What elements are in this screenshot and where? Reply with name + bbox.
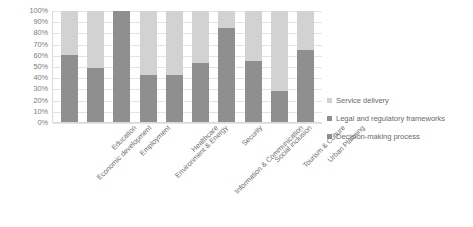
bar-column[interactable] — [61, 11, 78, 122]
bar-segment[interactable] — [271, 91, 288, 122]
legend-label: Legal and regulatory frameworks — [336, 114, 445, 123]
stacked-bar-chart: 100%90%80%70%60%50%40%30%20%10%0% Econom… — [0, 0, 473, 227]
y-axis-tick-label: 80% — [34, 29, 49, 37]
bar-segment[interactable] — [192, 63, 209, 122]
bar-segment[interactable] — [245, 11, 262, 61]
legend-item[interactable]: Decision-making process — [327, 132, 473, 141]
bar-segment[interactable] — [297, 50, 314, 122]
bar-column[interactable] — [87, 11, 104, 122]
bar-segment[interactable] — [113, 11, 130, 122]
y-axis: 100%90%80%70%60%50%40%30%20%10%0% — [14, 11, 50, 123]
y-axis-tick-label: 10% — [34, 108, 49, 116]
bar-column[interactable] — [245, 11, 262, 122]
bar-segment[interactable] — [271, 11, 288, 91]
bar-segment[interactable] — [140, 11, 157, 75]
y-axis-tick-label: 100% — [29, 7, 48, 15]
bar-segment[interactable] — [87, 68, 104, 122]
bar-segment[interactable] — [166, 11, 183, 75]
bar-column[interactable] — [218, 11, 235, 122]
bar-column[interactable] — [113, 11, 130, 122]
bar-segment[interactable] — [61, 55, 78, 122]
bar-column[interactable] — [297, 11, 314, 122]
bar-segment[interactable] — [297, 11, 314, 50]
y-axis-tick-label: 20% — [34, 97, 49, 105]
legend-swatch-icon — [327, 134, 332, 139]
bar-column[interactable] — [192, 11, 209, 122]
y-axis-tick-label: 30% — [34, 85, 49, 93]
legend-item[interactable]: Legal and regulatory frameworks — [327, 114, 473, 123]
legend-item[interactable]: Service delivery — [327, 96, 473, 105]
legend-swatch-icon — [327, 116, 332, 121]
y-axis-tick-label: 70% — [34, 41, 49, 49]
y-axis-tick-label: 50% — [34, 63, 49, 71]
chart-legend: Service deliveryLegal and regulatory fra… — [327, 96, 473, 150]
bar-segment[interactable] — [166, 75, 183, 122]
bar-segment[interactable] — [192, 11, 209, 63]
x-axis-labels: Economic developmentEducationEmploymentE… — [52, 124, 322, 219]
bar-column[interactable] — [166, 11, 183, 122]
y-axis-tick-label: 40% — [34, 74, 49, 82]
x-axis-tick-label: Security — [240, 124, 264, 148]
bar-segment[interactable] — [61, 11, 78, 55]
bar-segment[interactable] — [218, 11, 235, 28]
x-axis-tick-label: Environment & Energy — [174, 124, 230, 180]
bar-segment[interactable] — [218, 28, 235, 122]
bar-segment[interactable] — [140, 75, 157, 122]
plot-wrapper: 100%90%80%70%60%50%40%30%20%10%0% — [52, 11, 322, 123]
legend-label: Service delivery — [336, 96, 389, 105]
y-axis-tick-label: 60% — [34, 52, 49, 60]
legend-swatch-icon — [327, 98, 332, 103]
bar-series-group — [53, 11, 322, 122]
plot-area — [52, 11, 322, 123]
legend-label: Decision-making process — [336, 132, 420, 141]
bar-column[interactable] — [140, 11, 157, 122]
y-axis-tick-label: 90% — [34, 18, 49, 26]
bar-segment[interactable] — [87, 11, 104, 68]
y-axis-tick-label: 0% — [38, 119, 48, 127]
bar-column[interactable] — [271, 11, 288, 122]
bar-segment[interactable] — [245, 61, 262, 122]
